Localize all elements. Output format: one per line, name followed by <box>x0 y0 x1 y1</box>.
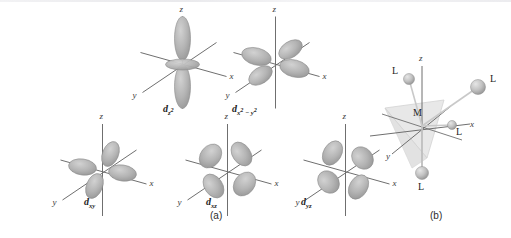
ligand-label-upper-left: L <box>392 66 398 76</box>
torus-ring <box>166 59 200 70</box>
complex-axis-label-y: y <box>386 152 390 161</box>
axis-label-x-dxy: x <box>150 179 154 188</box>
panel-caption-a: (a) <box>210 210 222 221</box>
orbital-dxz: z x y <box>170 122 285 222</box>
lobe-xz-c <box>227 138 256 170</box>
orbital-svg-dxz <box>170 122 285 222</box>
lobe-xz-b <box>229 168 261 201</box>
lobe-xz-a <box>195 140 227 173</box>
orbital-dx2y2: z x y <box>218 12 333 117</box>
orbital-svg-dx2y2 <box>218 12 333 117</box>
metal-center-label: M <box>413 108 422 118</box>
ligand-sphere-upper-left <box>404 74 415 85</box>
axis-label-x-dxz: x <box>275 179 279 188</box>
complex-svg <box>352 40 502 200</box>
figure-canvas: z x y z x y <box>0 0 511 238</box>
axis-label-y-dx2y2: y <box>226 91 230 100</box>
ligand-label-bottom: L <box>418 182 424 192</box>
ligand-label-front-right: L <box>456 127 462 137</box>
ligand-sphere-upper-right <box>471 80 486 95</box>
top-edge-shadow <box>0 0 511 2</box>
ligand-sphere-bottom <box>416 167 429 180</box>
lobe-z-positive <box>175 17 191 61</box>
axis-label-y-dxz: y <box>178 198 182 207</box>
orbital-label-dxz: dxz <box>206 196 217 209</box>
axis-label-z-dxy: z <box>100 112 104 121</box>
lobe-yz-a <box>318 137 347 169</box>
orbital-label-dyz: dyz <box>301 196 312 209</box>
axis-label-y-dxy: y <box>53 198 57 207</box>
tetrahedral-complex-diagram: M z x y L L L L <box>352 40 502 200</box>
panel-caption-b: (b) <box>430 210 442 221</box>
lobe-y-positive <box>245 62 276 90</box>
complex-axis-label-z: z <box>419 54 423 63</box>
orbital-label-dxy: dxy <box>84 196 95 209</box>
orbital-label-dz2: dz2 <box>163 103 174 116</box>
axis-label-y-dz2: y <box>133 91 137 100</box>
lobe-z-negative <box>175 65 191 109</box>
axis-label-y-dyz: y <box>296 198 300 207</box>
axis-label-z-dz2: z <box>180 5 184 14</box>
lobe-x-negative <box>240 45 273 69</box>
lobe-yz-d <box>313 166 344 197</box>
lobe-xy-d <box>98 139 123 169</box>
lobe-y-negative <box>275 36 306 64</box>
axis-label-x-dx2y2: x <box>323 72 327 81</box>
axis-label-z-dx2y2: z <box>273 5 277 14</box>
ligand-label-upper-right: L <box>490 74 496 84</box>
axis-label-z-dxz: z <box>225 112 229 121</box>
orbital-dxy: z x y <box>45 122 160 222</box>
lobe-xy-a <box>68 157 98 177</box>
orbital-label-dx2y2: dx2 − y2 <box>232 103 257 116</box>
complex-axis-label-x: x <box>470 120 474 129</box>
orbital-svg-dxy <box>45 122 160 222</box>
axis-label-z-dyz: z <box>343 112 347 121</box>
